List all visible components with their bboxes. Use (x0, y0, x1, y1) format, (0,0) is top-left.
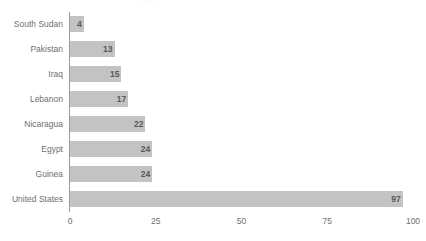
category-label: Iraq (0, 66, 63, 82)
category-label: Guinea (0, 166, 63, 182)
category-label: United States (0, 191, 63, 207)
x-axis-tick-label: 75 (307, 216, 347, 226)
x-axis-tick-label: 100 (393, 216, 426, 226)
x-axis-tick-label: 25 (136, 216, 176, 226)
x-axis-tick-label: 0 (50, 216, 90, 226)
bar-row: Nicaragua22 (0, 116, 426, 132)
plot-area: South Sudan4Pakistan13Iraq15Lebanon17Nic… (0, 0, 426, 241)
bar-value-label: 15 (107, 66, 119, 82)
bar-value-label: 24 (138, 141, 150, 157)
bar-chart: stav South Sudan4Pakistan13Iraq15Lebanon… (0, 0, 426, 241)
category-label: Lebanon (0, 91, 63, 107)
bar-value-label: 22 (131, 116, 143, 132)
bar-row: United States97 (0, 191, 426, 207)
bar-value-label: 4 (70, 16, 82, 32)
bar-value-label: 17 (114, 91, 126, 107)
category-label: Nicaragua (0, 116, 63, 132)
bar-row: Guinea24 (0, 166, 426, 182)
bar-row: South Sudan4 (0, 16, 426, 32)
bar-row: Lebanon17 (0, 91, 426, 107)
bar-value-label: 97 (389, 191, 401, 207)
bar-row: Egypt24 (0, 141, 426, 157)
bar (70, 191, 403, 207)
category-label: South Sudan (0, 16, 63, 32)
bar-value-label: 24 (138, 166, 150, 182)
category-label: Egypt (0, 141, 63, 157)
x-axis-tick-label: 50 (222, 216, 262, 226)
category-label: Pakistan (0, 41, 63, 57)
bar-row: Pakistan13 (0, 41, 426, 57)
bar-value-label: 13 (101, 41, 113, 57)
bar-row: Iraq15 (0, 66, 426, 82)
